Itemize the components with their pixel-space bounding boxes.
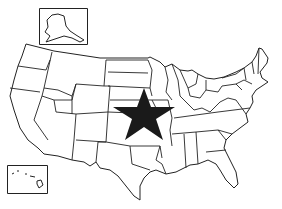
us-map (0, 0, 282, 209)
hawaii-inset-box (8, 166, 48, 194)
us-map-svg (0, 0, 282, 209)
